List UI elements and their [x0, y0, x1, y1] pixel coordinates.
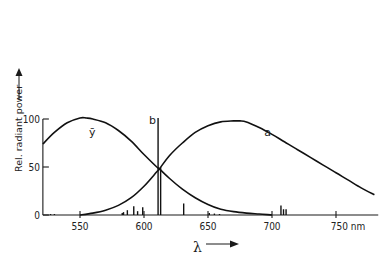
- x-tick-label: 700: [263, 221, 280, 232]
- axis-ticks: 050100550600650700750 nm: [23, 114, 366, 233]
- x-tick-label: 650: [199, 221, 216, 232]
- x-axis-title: λ: [193, 239, 202, 255]
- spectral-lines-b: [51, 118, 287, 215]
- curve-label: b: [149, 114, 156, 127]
- curve-label: ȳ: [89, 126, 96, 139]
- x-tick-label: 750 nm: [331, 221, 366, 232]
- y-tick-label: 100: [23, 114, 40, 125]
- curve-label: a: [264, 126, 271, 139]
- x-arrow-head-icon: [230, 241, 239, 248]
- y-tick-label: 0: [34, 210, 40, 221]
- y-tick-label: 50: [28, 162, 40, 173]
- y-arrow-head-icon: [16, 68, 23, 76]
- x-tick-label: 550: [71, 221, 88, 232]
- spectral-power-chart: 050100550600650700750 nm ȳba Rel. radian…: [0, 0, 388, 258]
- x-tick-label: 600: [135, 221, 152, 232]
- curve-labels: ȳba: [89, 114, 271, 139]
